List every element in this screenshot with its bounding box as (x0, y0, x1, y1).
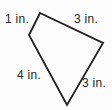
side-label-bottom-right: 3 in. (82, 76, 106, 90)
geometry-diagram: 1 in.3 in.4 in.3 in. (0, 0, 112, 110)
quadrilateral-figure: 1 in.3 in.4 in.3 in. (0, 0, 112, 110)
side-label-top-right: 3 in. (74, 12, 98, 26)
side-label-top-left: 1 in. (5, 12, 29, 26)
side-label-bottom-left: 4 in. (17, 68, 41, 82)
